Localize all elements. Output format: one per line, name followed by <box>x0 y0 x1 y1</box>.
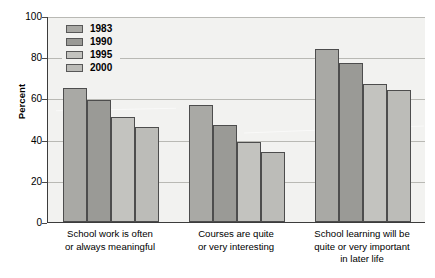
y-tick-mark-0 <box>42 223 47 224</box>
legend-label-1995: 1995 <box>90 50 112 60</box>
legend-item-2000: 2000 <box>66 62 112 74</box>
bar-1990-cat1 <box>87 100 111 222</box>
bar-1983-cat1 <box>63 88 87 222</box>
legend-swatch-2000 <box>66 64 83 72</box>
legend-item-1983: 1983 <box>66 23 112 35</box>
legend-swatch-1995 <box>66 51 83 59</box>
x-category-label-1-line1: School work is often <box>47 228 173 241</box>
x-category-label-3-line3: in later life <box>299 253 425 266</box>
x-category-label-3: School learning will bequite or very imp… <box>299 228 425 266</box>
legend: 1983199019952000 <box>62 20 120 78</box>
bar-chart-figure: Percent 100806040200 1983199019952000 Sc… <box>0 0 435 278</box>
x-axis-category-labels: School work is oftenor always meaningful… <box>47 228 425 274</box>
legend-label-1983: 1983 <box>90 24 112 34</box>
x-category-label-1-line2: or always meaningful <box>47 241 173 254</box>
bar-1990-cat3 <box>339 63 363 222</box>
y-tick-label-80: 80 <box>18 53 42 63</box>
legend-label-1990: 1990 <box>90 37 112 47</box>
x-category-label-3-line1: School learning will be <box>299 228 425 241</box>
legend-label-2000: 2000 <box>90 63 112 73</box>
legend-swatch-1990 <box>66 38 83 46</box>
bar-1995-cat3 <box>363 84 387 222</box>
bar-1995-cat1 <box>111 117 135 222</box>
bar-1983-cat2 <box>189 105 213 222</box>
y-tick-label-40: 40 <box>18 136 42 146</box>
x-category-label-2: Courses are quiteor very interesting <box>173 228 299 253</box>
bar-1990-cat2 <box>213 125 237 222</box>
bar-2000-cat1 <box>135 127 159 222</box>
legend-item-1990: 1990 <box>66 36 112 48</box>
x-category-label-1: School work is oftenor always meaningful <box>47 228 173 253</box>
y-tick-label-0: 0 <box>18 218 42 228</box>
legend-item-1995: 1995 <box>66 49 112 61</box>
y-tick-label-100: 100 <box>18 12 42 22</box>
x-category-label-3-line2: quite or very important <box>299 241 425 254</box>
plot-area: 1983199019952000 <box>47 17 425 223</box>
y-axis-tick-labels: 100806040200 <box>16 0 42 278</box>
bar-1995-cat2 <box>237 142 261 222</box>
bar-1983-cat3 <box>315 49 339 222</box>
bar-2000-cat3 <box>387 90 411 222</box>
y-tick-label-60: 60 <box>18 94 42 104</box>
x-category-label-2-line1: Courses are quite <box>173 228 299 241</box>
legend-swatch-1983 <box>66 25 83 33</box>
x-category-label-2-line2: or very interesting <box>173 241 299 254</box>
y-tick-label-20: 20 <box>18 177 42 187</box>
bar-2000-cat2 <box>261 152 285 222</box>
